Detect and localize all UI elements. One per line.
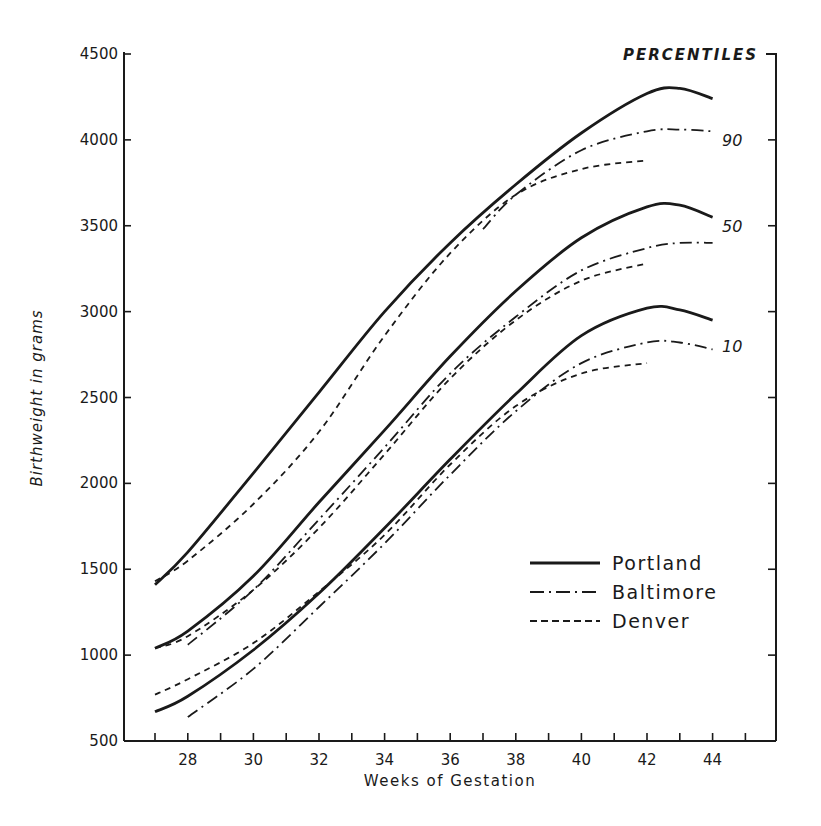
legend-label-baltimore: Baltimore [612, 581, 717, 603]
legend: PortlandBaltimoreDenver [530, 552, 717, 632]
y-tick-label: 500 [89, 732, 118, 750]
percentiles-header: PERCENTILES [623, 46, 758, 64]
x-tick-label: 44 [703, 751, 722, 769]
x-axis-title: Weeks of Gestation [364, 772, 536, 790]
y-tick-label: 4000 [80, 131, 118, 149]
y-axis-title: Birthweight in grams [28, 309, 46, 486]
legend-label-denver: Denver [612, 610, 690, 632]
x-tick-label: 40 [572, 751, 591, 769]
percentile-label-50: 50 [722, 217, 742, 236]
y-tick-label: 2000 [80, 474, 118, 492]
x-tick-label: 36 [441, 751, 460, 769]
x-tick-label: 28 [178, 751, 197, 769]
axes [124, 52, 776, 741]
y-tick-label: 1500 [80, 560, 118, 578]
x-tick-label: 38 [506, 751, 525, 769]
percentile-labels: 905010 [722, 131, 742, 356]
line-denver-p90 [155, 161, 647, 582]
y-tick-label: 3000 [80, 303, 118, 321]
x-tick-label: 34 [375, 751, 394, 769]
y-tick-label: 3500 [80, 217, 118, 235]
right-axis-ticks [768, 140, 776, 655]
percentile-label-90: 90 [722, 131, 742, 150]
x-tick-label: 30 [244, 751, 263, 769]
y-tick-label: 1000 [80, 646, 118, 664]
legend-label-portland: Portland [612, 552, 703, 574]
line-portland-p10 [155, 306, 713, 712]
y-tick-label: 4500 [80, 45, 118, 63]
x-tick-label: 42 [637, 751, 656, 769]
line-denver-p50 [155, 264, 647, 649]
percentile-label-10: 10 [722, 337, 742, 356]
line-baltimore-p10 [188, 341, 713, 717]
x-axis-ticks: 283032343638404244 [155, 733, 745, 769]
y-tick-label: 2500 [80, 389, 118, 407]
x-tick-label: 32 [309, 751, 328, 769]
birthweight-chart: 50010001500200025003000350040004500 2830… [0, 0, 821, 826]
line-baltimore-p90 [483, 129, 713, 229]
